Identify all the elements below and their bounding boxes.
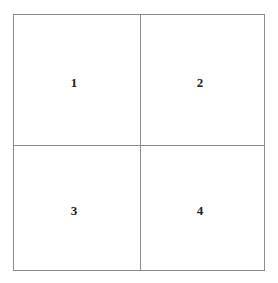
quadrant-grid: 1 2 3 4 (13, 14, 265, 271)
quadrant-top-right: 2 (141, 15, 265, 145)
quadrant-label-4: 4 (197, 203, 204, 219)
quadrant-label-1: 1 (71, 75, 78, 91)
quadrant-label-3: 3 (71, 203, 78, 219)
quadrant-bottom-left: 3 (14, 146, 140, 270)
quadrant-top-left: 1 (14, 15, 140, 145)
quadrant-bottom-right: 4 (141, 146, 265, 270)
quadrant-label-2: 2 (197, 75, 204, 91)
